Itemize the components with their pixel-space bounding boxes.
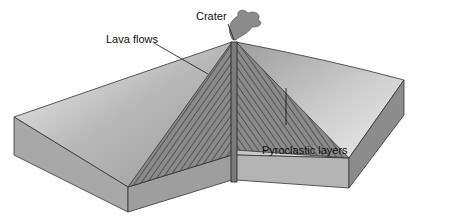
conduit bbox=[231, 42, 237, 182]
crater-label: Crater bbox=[196, 10, 227, 22]
pyroclastic-layers-label: Pyroclastic layers bbox=[262, 144, 348, 156]
lava-flows-label: Lava flows bbox=[106, 33, 158, 45]
volcano-diagram bbox=[0, 0, 461, 219]
eruption-plume bbox=[229, 10, 260, 40]
right-cut-face bbox=[236, 155, 349, 188]
